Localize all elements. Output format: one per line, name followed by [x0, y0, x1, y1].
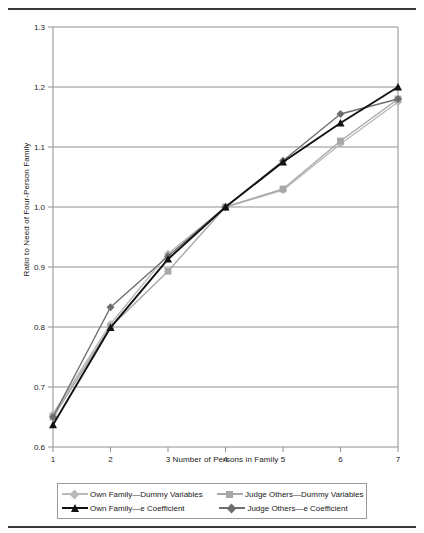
series-0	[49, 98, 402, 418]
figure: 0.60.70.80.91.01.11.21.31234567 Ratio to…	[0, 0, 424, 533]
legend-item-judge-others-e-coefficient[interactable]: Judge Others—e Coefficient	[219, 501, 362, 515]
legend-label: Own Family—Dummy Variables	[88, 490, 203, 499]
y-tick-label: 0.9	[34, 263, 46, 272]
series-line	[53, 87, 398, 425]
legend-diamond-icon	[227, 504, 237, 514]
chart-plot-area: 0.60.70.80.91.01.11.21.31234567	[0, 0, 424, 470]
legend-row: Own Family—e Coefficient Judge Others—e …	[62, 501, 362, 515]
legend-marker-icon	[217, 488, 243, 500]
legend-diamond-icon	[70, 490, 80, 500]
legend-label: Own Family—e Coefficient	[88, 504, 185, 513]
legend-item-own-family-dummy-variables[interactable]: Own Family—Dummy Variables	[62, 487, 217, 501]
line-chart: 0.60.70.80.91.01.11.21.31234567	[0, 0, 424, 470]
data-point-marker	[280, 186, 287, 193]
y-axis-title: Ratio to Need of Four-Person Family	[22, 120, 31, 300]
data-point-marker	[337, 119, 345, 126]
series-1	[50, 96, 402, 421]
legend-item-own-family-e-coefficient[interactable]: Own Family—e Coefficient	[62, 501, 219, 515]
legend-square-icon	[226, 491, 233, 498]
y-tick-label: 1.3	[34, 23, 46, 32]
y-tick-label: 0.8	[34, 323, 46, 332]
legend-marker-icon	[62, 488, 88, 500]
y-tick-label: 1.2	[34, 83, 46, 92]
y-tick-label: 0.6	[34, 443, 46, 452]
data-point-marker	[337, 138, 344, 145]
series-line	[53, 102, 398, 414]
y-tick-label: 1.0	[34, 203, 46, 212]
legend-item-judge-others-dummy-variables[interactable]: Judge Others—Dummy Variables	[217, 487, 362, 501]
legend-row: Own Family—Dummy Variables Judge Others—…	[62, 487, 362, 501]
x-axis-title: Number of Persons in Family	[53, 455, 398, 464]
legend-label: Judge Others—Dummy Variables	[243, 490, 364, 499]
series-3	[49, 95, 402, 421]
legend-marker-icon	[62, 502, 88, 514]
legend-triangle-icon	[71, 504, 79, 512]
legend-marker-icon	[219, 502, 245, 514]
bottom-rule	[8, 526, 416, 528]
y-tick-label: 1.1	[34, 143, 46, 152]
legend-label: Judge Others—e Coefficient	[245, 504, 347, 513]
y-tick-label: 0.7	[34, 383, 46, 392]
chart-legend: Own Family—Dummy Variables Judge Others—…	[57, 483, 367, 519]
data-point-marker	[165, 268, 172, 275]
